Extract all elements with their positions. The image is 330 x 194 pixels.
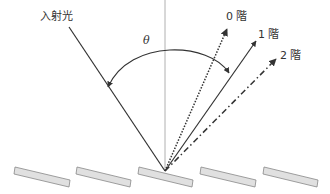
grating-facet-5 — [263, 167, 318, 187]
order-1-ray — [165, 41, 256, 171]
theta-label: θ — [143, 34, 150, 47]
grating-facet-1 — [14, 167, 70, 187]
order-0-label: 0 階 — [226, 9, 248, 23]
order-1-label: 1 階 — [258, 27, 280, 41]
incident-light-label: 入射光 — [40, 9, 73, 23]
order-2-ray — [165, 59, 276, 171]
incident-ray — [69, 27, 165, 171]
diffraction-grating-diagram: 入射光 θ 0 階 1 階 2 階 — [0, 0, 330, 194]
grating-facet-4 — [200, 167, 256, 187]
grating-facet-2 — [76, 167, 131, 187]
order-2-label: 2 階 — [280, 48, 302, 62]
theta-arc — [108, 50, 229, 87]
